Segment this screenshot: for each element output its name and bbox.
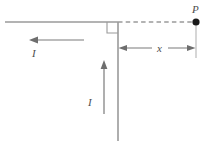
distance-label-x: x bbox=[157, 43, 162, 54]
point-label-P: P bbox=[192, 4, 199, 15]
left-pointing-current-arrow bbox=[29, 37, 84, 44]
filled-dot-point-P bbox=[192, 18, 199, 25]
right-angle-square bbox=[107, 22, 118, 33]
current-label-horizontal: I bbox=[32, 48, 36, 59]
figure-canvas bbox=[0, 0, 212, 143]
current-label-vertical: I bbox=[88, 97, 92, 108]
physics-figure: I I x P bbox=[0, 0, 212, 143]
up-pointing-current-arrow bbox=[101, 60, 108, 114]
